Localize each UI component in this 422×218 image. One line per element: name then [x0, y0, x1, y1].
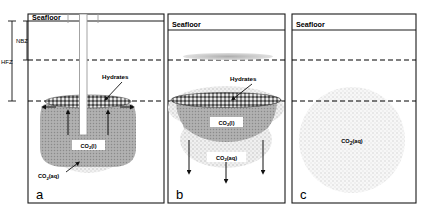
panel-b-hydrate-cap-leakage: Hydrates CO2(l) CO2(aq) b Seafloor	[168, 14, 285, 203]
panel-a-seafloor-label: Seafloor	[32, 13, 61, 22]
panel-b-co2-aqueous-label: CO2(aq)	[207, 152, 246, 162]
panel-a-seafloor-label-group: Seafloor	[32, 13, 61, 22]
zone-label-nbz: NBZ	[16, 38, 28, 44]
panel-b-upper-lens	[183, 53, 273, 60]
diagram-canvas: NBZ HFZ	[0, 0, 422, 218]
panel-c-letter: c	[300, 187, 307, 202]
panel-c-dissolved-plume: CO2(aq) c Seafloor	[292, 14, 416, 203]
panel-b-seafloor-label: Seafloor	[172, 20, 201, 29]
panel-a-hydrate-cap	[45, 95, 131, 108]
hydrates-label-b: Hydrates	[230, 75, 257, 82]
panel-b-co2-liquid-label: CO2(l)	[210, 117, 243, 127]
panel-a-co2-liquid-pool	[40, 104, 136, 167]
panel-a-letter: a	[36, 187, 44, 202]
panel-c-co2-aqueous-label: CO2(aq)	[333, 135, 372, 146]
zone-label-hfz: HFZ	[1, 59, 13, 65]
panel-a-well-injection: Hydrates CO2(l) CO2(aq) a Seafloor	[28, 13, 164, 203]
panel-a-co2-liquid-label: CO2(l)	[72, 140, 105, 150]
figure-co2-sequestration-panels: NBZ HFZ	[0, 0, 422, 218]
panel-b-letter: b	[176, 187, 183, 202]
hydrates-label: Hydrates	[102, 73, 129, 80]
well-casing	[80, 14, 88, 135]
panel-b-hydrate-cap-overlay	[171, 93, 281, 108]
panel-c-seafloor-label: Seafloor	[296, 20, 325, 29]
